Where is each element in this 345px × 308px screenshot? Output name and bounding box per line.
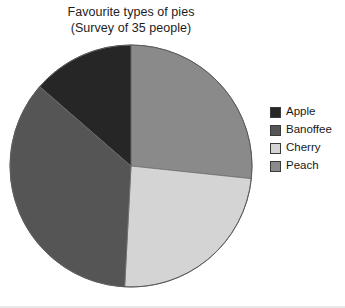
pie-svg	[0, 0, 265, 308]
legend-label-peach: Peach	[286, 160, 319, 172]
legend-swatch-apple	[270, 107, 281, 118]
legend-swatch-peach	[270, 161, 281, 172]
pie-slice-cherry[interactable]	[125, 166, 252, 287]
legend-label-apple: Apple	[286, 106, 315, 118]
legend-swatch-cherry	[270, 143, 281, 154]
chart-legend: Apple Banoffee Cherry Peach	[270, 103, 345, 175]
legend-label-cherry: Cherry	[286, 142, 321, 154]
pie-slice-peach[interactable]	[131, 45, 252, 179]
pie-chart-figure: Favourite types of pies (Survey of 35 pe…	[0, 0, 345, 308]
pie-plot-area	[0, 0, 265, 308]
legend-item-peach[interactable]: Peach	[270, 157, 345, 175]
legend-item-banoffee[interactable]: Banoffee	[270, 121, 345, 139]
pie-slices-group	[10, 45, 252, 287]
legend-swatch-banoffee	[270, 125, 281, 136]
legend-label-banoffee: Banoffee	[286, 124, 332, 136]
legend-item-apple[interactable]: Apple	[270, 103, 345, 121]
legend-item-cherry[interactable]: Cherry	[270, 139, 345, 157]
